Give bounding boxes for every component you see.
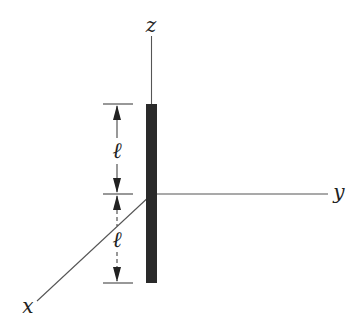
- arrow-up-icon: [113, 105, 121, 120]
- arrow-down-icon: [113, 267, 121, 282]
- x-axis: [37, 194, 152, 301]
- charged-rod: [146, 104, 157, 283]
- y-axis-label: y: [332, 180, 345, 204]
- x-axis-label: x: [22, 294, 33, 318]
- lower-length-label: ℓ: [112, 227, 122, 252]
- z-axis-label: z: [145, 13, 157, 37]
- upper-length-label: ℓ: [112, 138, 122, 163]
- arrow-down-icon: [113, 178, 121, 193]
- rod-axes-diagram: z y x ℓ ℓ: [0, 0, 359, 324]
- arrow-up-icon: [113, 195, 121, 210]
